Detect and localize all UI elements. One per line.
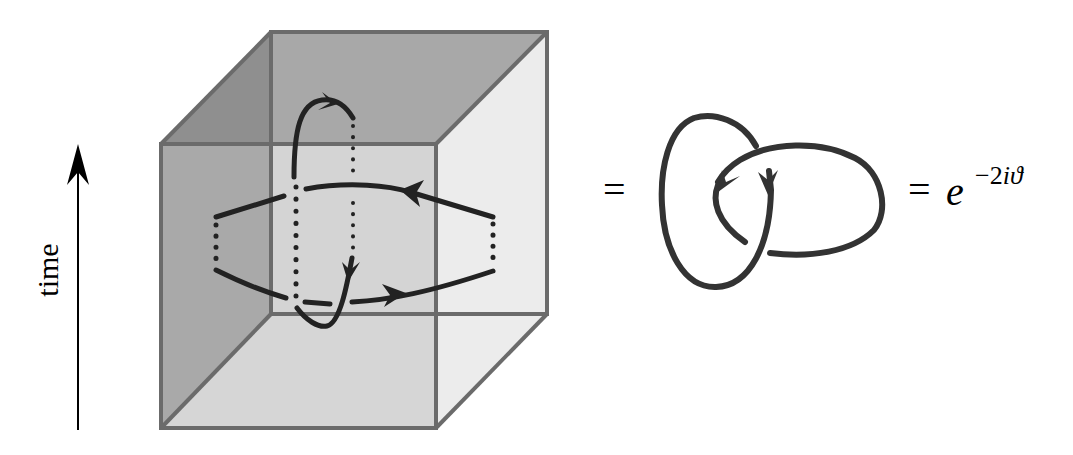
diagram-figure: time bbox=[0, 0, 1073, 455]
exponent-i: i bbox=[1003, 161, 1010, 190]
exponent-coeff: 2 bbox=[990, 161, 1003, 190]
equals-sign-1: = bbox=[603, 167, 626, 212]
spacetime-cube bbox=[161, 32, 547, 428]
horizontal-worldline-lower-mid bbox=[305, 302, 330, 304]
time-axis: time bbox=[31, 144, 89, 430]
result-expression: = e −2iϑ bbox=[908, 161, 1024, 214]
equals-sign-2: = bbox=[908, 167, 931, 212]
time-axis-label: time bbox=[31, 243, 64, 296]
knot-inner-arc bbox=[716, 185, 745, 242]
result-base: e bbox=[946, 169, 964, 214]
hopf-link bbox=[662, 116, 882, 287]
result-exponent: −2iϑ bbox=[975, 161, 1024, 190]
exponent-sign: − bbox=[975, 161, 990, 190]
exponent-theta: ϑ bbox=[1010, 161, 1024, 190]
